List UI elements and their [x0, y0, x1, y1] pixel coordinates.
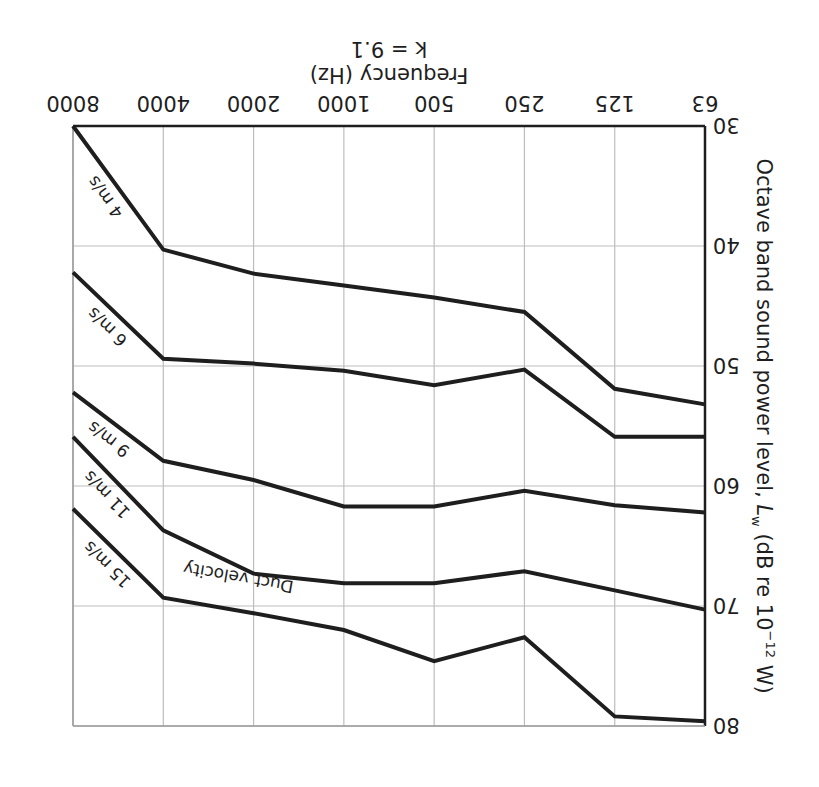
y-tick-label: 30: [713, 113, 740, 137]
y-tick-label: 70: [713, 593, 740, 617]
series-lines: [73, 126, 705, 721]
series-label: 11 m/s: [79, 467, 134, 523]
x-tick-label: 250: [504, 91, 544, 115]
x-tick-label: 63: [692, 91, 719, 115]
x-tick-label: 1000: [317, 91, 370, 115]
y-tick-label: 40: [713, 233, 740, 257]
series-line-15-m-s: [73, 509, 705, 721]
y-tick-label: 60: [713, 473, 740, 497]
x-axis-note: k = 9.1: [351, 37, 428, 61]
series-line-9-m-s: [73, 392, 705, 512]
plot-frame: [73, 126, 705, 726]
x-tick-label: 500: [414, 91, 454, 115]
y-axis-ticks: 304050607080: [713, 113, 740, 737]
x-tick-label: 125: [595, 91, 635, 115]
y-tick-label: 80: [713, 713, 740, 737]
x-tick-label: 4000: [137, 91, 190, 115]
series-line-6-m-s: [73, 272, 705, 436]
x-tick-label: 8000: [46, 91, 99, 115]
x-axis-title: Frequency (Hz): [310, 63, 468, 87]
series-labels: 4 m/s6 m/s9 m/s11 m/s15 m/s: [79, 172, 135, 592]
sound-power-chart: 4 m/s6 m/s9 m/s11 m/s15 m/s 631252505001…: [0, 0, 819, 787]
y-axis-title: Octave band sound power level, Lw (dB re…: [749, 158, 778, 693]
legend-title: Duct velocity: [182, 558, 296, 597]
x-tick-label: 2000: [227, 91, 280, 115]
series-label: 4 m/s: [83, 172, 127, 222]
y-tick-label: 50: [713, 353, 740, 377]
series-line-4-m-s: [73, 126, 705, 404]
grid-lines: [73, 126, 705, 726]
series-label: 15 m/s: [79, 537, 135, 592]
series-label: 6 m/s: [83, 303, 131, 350]
chart-canvas: 4 m/s6 m/s9 m/s11 m/s15 m/s 631252505001…: [0, 0, 819, 787]
x-axis-ticks: 631252505001000200040008000: [46, 91, 718, 115]
